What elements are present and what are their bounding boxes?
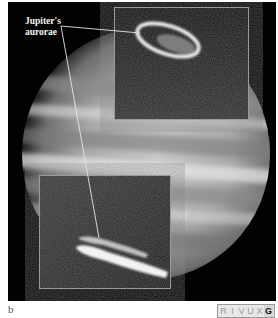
aurorae-label: Jupiter's aurorae (25, 16, 61, 37)
aurorae-label-line1: Jupiter's (25, 16, 61, 27)
band-u: U (246, 305, 255, 317)
wavelength-band-indicator: R I V U X G (217, 304, 275, 318)
band-v: V (237, 305, 246, 317)
photo-canvas (8, 2, 276, 301)
jupiter-aurora-photo: Jupiter's aurorae (8, 2, 276, 301)
band-r: R (219, 305, 228, 317)
band-g: G (264, 305, 273, 317)
north-aurora-inset (114, 7, 249, 120)
panel-letter: b (8, 303, 14, 315)
aurorae-label-line2: aurorae (25, 27, 61, 38)
band-x: X (255, 305, 264, 317)
band-i: I (228, 305, 237, 317)
south-aurora-inset (39, 175, 171, 289)
